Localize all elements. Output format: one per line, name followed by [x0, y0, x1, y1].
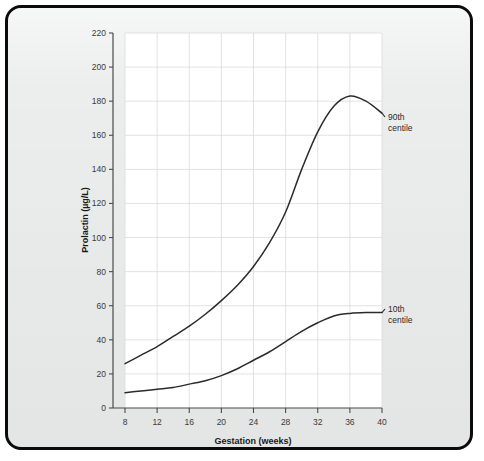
- y-axis-tick-label: 220: [92, 28, 106, 38]
- x-axis-tick-label: 24: [249, 417, 259, 427]
- x-axis-tick-label: 36: [345, 417, 355, 427]
- x-axis-title: Gestation (weeks): [214, 436, 291, 446]
- chart-svg: 020406080100120140160180200220 812162024…: [0, 0, 484, 461]
- series-label-90th-line1: 90th: [388, 112, 405, 122]
- y-axis-tick-labels: 020406080100120140160180200220: [92, 28, 106, 413]
- y-axis-tick-label: 20: [97, 369, 107, 379]
- y-axis-tick-label: 60: [97, 301, 107, 311]
- x-axis-tick-label: 20: [217, 417, 227, 427]
- series-label-10th-line1: 10th: [388, 304, 405, 314]
- prolactin-centile-chart: 020406080100120140160180200220 812162024…: [0, 0, 484, 461]
- y-axis-tick-label: 80: [97, 267, 107, 277]
- series-label-10th-line2: centile: [388, 315, 413, 325]
- series-label-90th-line2: centile: [388, 123, 413, 133]
- y-axis-tick-label: 180: [92, 96, 106, 106]
- x-axis-tick-label: 32: [313, 417, 323, 427]
- figure-page: 020406080100120140160180200220 812162024…: [0, 0, 484, 461]
- x-axis-tick-label: 16: [185, 417, 195, 427]
- x-axis-ticks: [125, 408, 382, 413]
- x-axis-tick-labels: 81216202428323640: [123, 417, 387, 427]
- x-axis-tick-label: 40: [377, 417, 387, 427]
- y-axis-tick-label: 140: [92, 164, 106, 174]
- y-axis-tick-label: 40: [97, 335, 107, 345]
- leader-10th-centile: [382, 309, 385, 313]
- x-axis-tick-label: 12: [152, 417, 162, 427]
- annotation-leaders: [382, 113, 385, 312]
- leader-90th-centile: [382, 113, 385, 117]
- y-axis-tick-label: 100: [92, 233, 106, 243]
- y-axis-tick-label: 120: [92, 198, 106, 208]
- x-axis-tick-label: 28: [281, 417, 291, 427]
- x-axis-tick-label: 8: [123, 417, 128, 427]
- y-axis-title: Prolactin (µg/L): [80, 187, 90, 253]
- y-axis-tick-label: 200: [92, 62, 106, 72]
- y-axis-tick-label: 0: [101, 403, 106, 413]
- y-axis-tick-label: 160: [92, 130, 106, 140]
